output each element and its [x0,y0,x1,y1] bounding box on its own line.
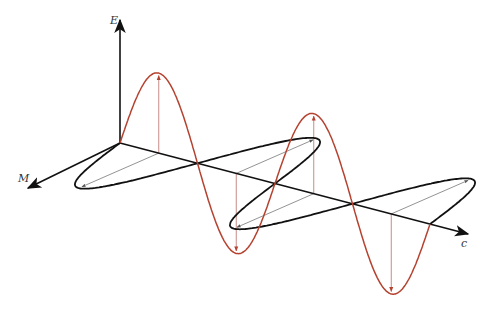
em-wave-diagram: E M c [0,0,487,324]
propagation-axis-label: c [461,237,467,250]
magnetic-axis-label: M [17,172,30,185]
magnetic-vector [236,140,313,174]
magnetic-vector [82,153,159,187]
magnetic-vector [237,194,314,228]
electric-wave [120,73,430,294]
magnetic-vector [391,180,468,214]
propagation-axis [120,143,468,234]
magnetic-axis [28,143,120,188]
electric-axis-label: E [109,14,118,27]
